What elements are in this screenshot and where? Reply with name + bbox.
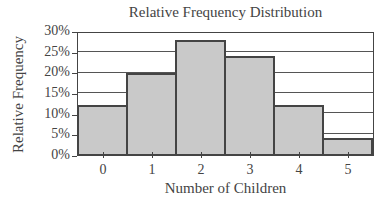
chart-title: Relative Frequency Distribution	[77, 4, 374, 21]
x-tick-label: 5	[338, 162, 358, 178]
x-tick-mark	[201, 152, 202, 158]
x-axis-label: Number of Children	[77, 180, 374, 197]
x-tick-mark	[250, 152, 251, 158]
y-tick-mark	[72, 73, 77, 74]
x-tick-label: 2	[191, 162, 211, 178]
x-tick-mark	[103, 152, 104, 158]
x-tick-mark	[299, 152, 300, 158]
y-tick-label: 15%	[30, 86, 70, 100]
y-tick-label: 0%	[30, 148, 70, 162]
y-tick-mark	[72, 156, 77, 157]
y-tick-mark	[72, 135, 77, 136]
bar-1	[126, 73, 177, 154]
bar-3	[224, 56, 275, 154]
plot-area	[77, 32, 374, 156]
y-tick-label: 10%	[30, 107, 70, 121]
x-tick-label: 1	[142, 162, 162, 178]
y-tick-mark	[72, 94, 77, 95]
bar-2	[175, 40, 226, 154]
y-tick-label: 5%	[30, 127, 70, 141]
y-tick-label: 25%	[30, 45, 70, 59]
x-tick-mark	[348, 152, 349, 158]
bar-4	[273, 105, 324, 154]
y-tick-mark	[72, 32, 77, 33]
x-tick-label: 0	[93, 162, 113, 178]
y-tick-label: 20%	[30, 65, 70, 79]
y-tick-mark	[72, 115, 77, 116]
bar-0	[77, 105, 128, 154]
x-tick-mark	[152, 152, 153, 158]
y-axis-label: Relative Frequency	[10, 35, 27, 155]
y-tick-mark	[72, 53, 77, 54]
x-tick-label: 4	[289, 162, 309, 178]
x-tick-label: 3	[240, 162, 260, 178]
y-tick-label: 30%	[30, 24, 70, 38]
